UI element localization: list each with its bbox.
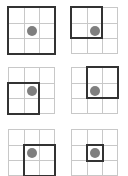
grid-panel-3 <box>8 67 55 114</box>
grid-line-horizontal <box>8 67 55 68</box>
grid-line-horizontal <box>71 129 118 130</box>
window-box <box>70 6 103 39</box>
grid-panel-5 <box>8 129 55 176</box>
grid-panel-4 <box>71 67 118 114</box>
window-box <box>7 6 56 55</box>
grid-line-vertical <box>8 129 9 176</box>
grid-line-horizontal <box>71 53 118 54</box>
grid-panel-1 <box>8 7 55 54</box>
grid-line-vertical <box>54 67 55 114</box>
grid-line-vertical <box>71 129 72 176</box>
grid-line-horizontal <box>8 129 55 130</box>
window-box <box>7 82 40 115</box>
grid-panel-6 <box>71 129 118 176</box>
grid-line-vertical <box>71 67 72 114</box>
window-box <box>86 66 119 99</box>
window-box <box>86 144 104 162</box>
grid-line-vertical <box>117 7 118 54</box>
grid-line-horizontal <box>71 175 118 176</box>
grid-panel-2 <box>71 7 118 54</box>
grid-line-vertical <box>117 129 118 176</box>
grid-line-horizontal <box>71 113 118 114</box>
window-box <box>23 144 56 176</box>
